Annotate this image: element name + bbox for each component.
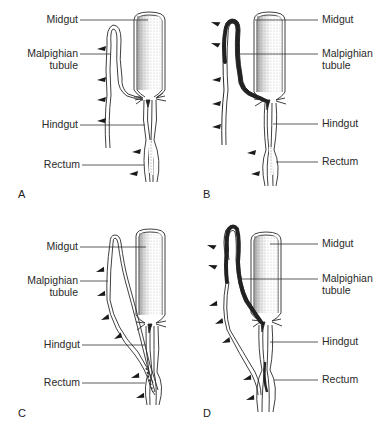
label-midgut-a: Midgut	[20, 13, 78, 25]
midgut-b	[254, 12, 285, 100]
panel-letter-c: C	[18, 407, 26, 419]
panel-c	[80, 229, 166, 405]
label-malpighian-d-1: Malpighian	[322, 272, 373, 284]
panel-b	[210, 12, 318, 186]
panel-letter-d: D	[203, 407, 211, 419]
midgut-d	[251, 232, 281, 321]
arrowheads-c	[95, 267, 145, 400]
midgut-c	[136, 229, 165, 323]
label-malpighian-c-2: tubule	[8, 286, 78, 298]
label-midgut-d: Midgut	[322, 237, 354, 249]
midgut-a	[134, 12, 165, 98]
label-malpighian-a-1: Malpighian	[8, 47, 78, 59]
label-hindgut-d: Hindgut	[322, 335, 358, 347]
hindgut-b	[263, 103, 278, 186]
label-rectum-c: Rectum	[20, 376, 80, 388]
panel-letter-a: A	[18, 188, 25, 200]
label-malpighian-a-2: tubule	[8, 59, 78, 71]
panel-d	[206, 226, 318, 412]
label-rectum-a: Rectum	[20, 158, 80, 170]
label-hindgut-c: Hindgut	[20, 338, 80, 350]
label-malpighian-d-2: tubule	[322, 284, 351, 296]
label-midgut-b: Midgut	[322, 13, 354, 25]
junction-d	[252, 319, 282, 332]
label-hindgut-b: Hindgut	[322, 117, 358, 129]
hindgut-d	[257, 325, 276, 412]
label-malpighian-b-2: tubule	[322, 59, 351, 71]
label-rectum-b: Rectum	[322, 155, 358, 167]
panel-letter-b: B	[203, 188, 210, 200]
label-malpighian-b-1: Malpighian	[322, 47, 373, 59]
panel-a	[80, 12, 166, 182]
label-malpighian-c-1: Malpighian	[8, 274, 78, 286]
label-midgut-c: Midgut	[20, 240, 78, 252]
hindgut-a	[143, 100, 159, 182]
label-hindgut-a: Hindgut	[20, 118, 78, 130]
label-rectum-d: Rectum	[322, 373, 358, 385]
arrowheads-d	[206, 242, 255, 402]
